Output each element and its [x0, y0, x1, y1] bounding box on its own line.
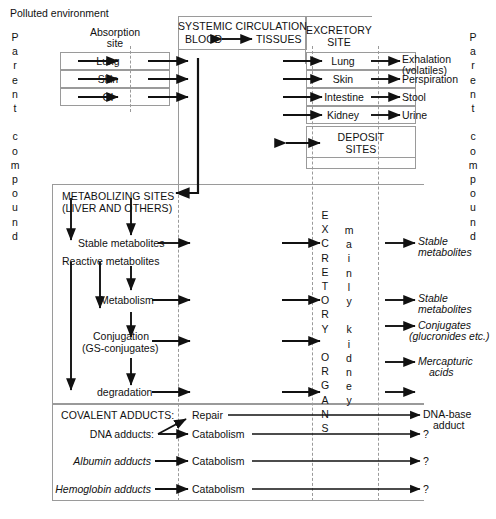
polluted-environment-label: Polluted environment [10, 8, 109, 20]
blood-label: BLOOD [185, 34, 222, 46]
excretory-row-lung: Lung [318, 56, 368, 68]
excretory-row-intestine: Intestine [316, 92, 372, 104]
repair-label: Repair [192, 410, 223, 422]
catabolism-label-1: Catabolism [192, 429, 245, 441]
step-gs-conjugates: (GS-conjugates) [82, 343, 158, 355]
hemoglobin-adducts-label: Hemoglobin adducts [50, 484, 151, 496]
catabolism-label-2: Catabolism [192, 456, 245, 468]
deposit-sites-line2: SITES [306, 144, 416, 156]
step-degradation: degradation [97, 387, 152, 399]
excretory-site-header-line2: SITE [306, 37, 372, 49]
step-stable-metabolites: Stable metabolites [78, 238, 164, 250]
mainly-kidney-column-label: m a i n l y k i d n e y [341, 223, 357, 408]
step-metabolism: Metabolism [100, 295, 154, 307]
absorption-row-lung: Lung [85, 56, 131, 68]
unknown-marker-2: ? [423, 456, 429, 468]
excretory-row-skin: Skin [318, 74, 368, 86]
covalent-adducts-header: COVALENT ADDUCTS: [61, 410, 174, 422]
output-stool: Stool [402, 92, 426, 104]
excretory-row-kidney: Kidney [318, 110, 368, 122]
unknown-marker-1: ? [423, 429, 429, 441]
catabolism-label-3: Catabolism [192, 484, 245, 496]
albumin-adducts-label: Albumin adducts [58, 456, 151, 468]
deposit-sites-line1: DEPOSIT [306, 132, 416, 144]
left-parent-compound-label: P a r e n t c o m p o u n d [8, 30, 22, 243]
right-parent-compound-label: P a r e n t c o m p o u n d [466, 30, 480, 243]
dna-base-adduct-line2: adduct [433, 420, 465, 432]
step-conjugation: Conjugation [93, 331, 149, 343]
right-output-stable-2-line2: metabolites [418, 304, 472, 316]
right-output-mercapturic-line2: acids [429, 367, 454, 379]
metabolizing-sites-line1: METABOLIZING SITES [62, 191, 174, 203]
output-urine: Urine [402, 110, 427, 122]
step-reactive-metabolites: Reactive metabolites [62, 256, 159, 268]
excretory-site-header-line1: EXCRETORY [306, 25, 372, 37]
output-perspiration: Perspiration [402, 74, 458, 86]
right-output-conjugates-line2: (glucronides etc.) [409, 331, 490, 343]
absorption-row-skin: Skin [85, 74, 131, 86]
systemic-circulation-title: SYSTEMIC CIRCULATION [178, 21, 306, 33]
absorption-row-gi: GI [85, 92, 131, 104]
right-output-stable-1-line2: metabolites [418, 247, 472, 259]
dna-adducts-label: DNA adducts: [62, 429, 154, 441]
unknown-marker-3: ? [423, 484, 429, 496]
diagram-canvas: Polluted environment P a r e n t c o m p… [0, 0, 496, 519]
metabolizing-sites-line2: (LIVER AND OTHERS) [62, 203, 172, 215]
tissues-label: TISSUES [256, 34, 302, 46]
excretory-organs-column-label: E X C R E T O R Y O R G A N S [317, 208, 333, 435]
absorption-header-line2: site [75, 38, 155, 50]
